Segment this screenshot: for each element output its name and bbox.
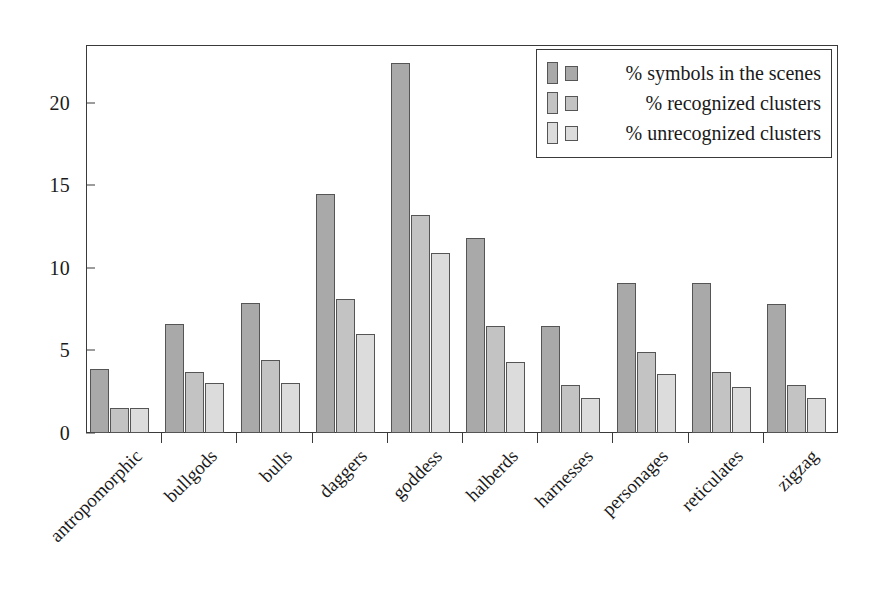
y-tick-mark (86, 350, 95, 351)
bar-zigzag-series-1 (767, 304, 786, 433)
x-tick-mark (236, 433, 237, 443)
x-tick-mark (161, 433, 162, 443)
bar-goddess-series-1 (391, 63, 410, 433)
legend-swatch-short-icon (565, 126, 578, 141)
bar-antropomorphic-series-3 (130, 408, 149, 433)
legend-label-series-3: % unrecognized clusters (593, 123, 821, 143)
x-tick-mark (462, 433, 463, 443)
bar-personages-series-1 (617, 283, 636, 433)
y-tick-mark (86, 185, 95, 186)
bar-personages-series-2 (637, 352, 656, 433)
legend-swatch-tall-icon (547, 122, 558, 144)
y-tick-mark (86, 102, 95, 103)
bar-bullgods-series-1 (165, 324, 184, 433)
x-tick-mark (312, 433, 313, 443)
bar-bullgods-series-2 (185, 372, 204, 433)
legend-item: % recognized clusters (547, 88, 821, 118)
bar-daggers-series-1 (316, 194, 335, 433)
legend-swatch-short-icon (565, 66, 578, 81)
x-tick-mark (537, 433, 538, 443)
bar-reticulates-series-3 (732, 387, 751, 433)
legend-item: % unrecognized clusters (547, 118, 821, 148)
legend-label-series-1: % symbols in the scenes (593, 63, 821, 83)
x-tick-mark (612, 433, 613, 443)
bar-halberds-series-2 (486, 326, 505, 433)
bar-antropomorphic-series-1 (90, 369, 109, 433)
x-tick-mark (763, 433, 764, 443)
bar-goddess-series-3 (431, 253, 450, 433)
legend-swatch-series-3 (547, 122, 593, 144)
x-tick-mark (688, 433, 689, 443)
bar-harnesses-series-3 (581, 398, 600, 433)
bar-goddess-series-2 (411, 215, 430, 433)
legend-swatch-series-1 (547, 62, 593, 84)
y-tick-mark (86, 267, 95, 268)
bar-harnesses-series-2 (561, 385, 580, 433)
bar-zigzag-series-2 (787, 385, 806, 433)
bar-halberds-series-3 (506, 362, 525, 433)
legend-swatch-short-icon (565, 96, 578, 111)
y-tick-mark (86, 433, 95, 434)
x-tick-mark (387, 433, 388, 443)
bar-bulls-series-1 (241, 303, 260, 433)
bar-bulls-series-2 (261, 360, 280, 433)
bar-chart: 05101520 % symbols in the scenes % recog… (0, 0, 871, 610)
chart-legend: % symbols in the scenes % recognized clu… (536, 49, 832, 158)
bar-zigzag-series-3 (807, 398, 826, 433)
bar-bullgods-series-3 (205, 383, 224, 433)
bar-bulls-series-3 (281, 383, 300, 433)
bar-daggers-series-2 (336, 299, 355, 433)
legend-item: % symbols in the scenes (547, 58, 821, 88)
bar-harnesses-series-1 (541, 326, 560, 433)
bar-personages-series-3 (657, 374, 676, 433)
bar-halberds-series-1 (466, 238, 485, 433)
bar-reticulates-series-1 (692, 283, 711, 433)
bar-antropomorphic-series-2 (110, 408, 129, 433)
bar-reticulates-series-2 (712, 372, 731, 433)
bar-daggers-series-3 (356, 334, 375, 433)
legend-swatch-tall-icon (547, 62, 558, 84)
legend-swatch-tall-icon (547, 92, 558, 114)
legend-swatch-series-2 (547, 92, 593, 114)
legend-label-series-2: % recognized clusters (593, 93, 821, 113)
